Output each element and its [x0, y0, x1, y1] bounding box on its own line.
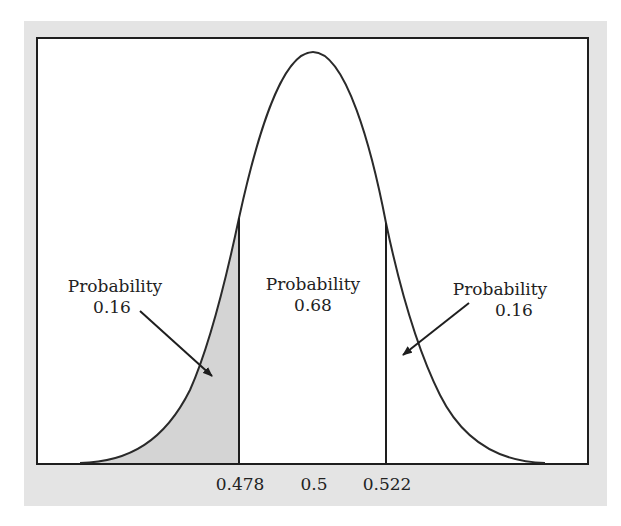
right-label-title: Probability [453, 279, 548, 299]
normal-distribution-figure: Probability 0.16 Probability 0.68 Probab… [0, 0, 621, 526]
left-label-value: 0.16 [93, 297, 131, 317]
center-label-value: 0.68 [294, 295, 332, 315]
left-label-title: Probability [68, 276, 163, 296]
center-label-title: Probability [266, 274, 361, 294]
right-label-value: 0.16 [495, 300, 533, 320]
x-tick-0-478: 0.478 [216, 474, 265, 494]
x-tick-0-522: 0.522 [363, 474, 412, 494]
x-tick-0-5: 0.5 [300, 474, 327, 494]
plot-frame [37, 38, 588, 464]
